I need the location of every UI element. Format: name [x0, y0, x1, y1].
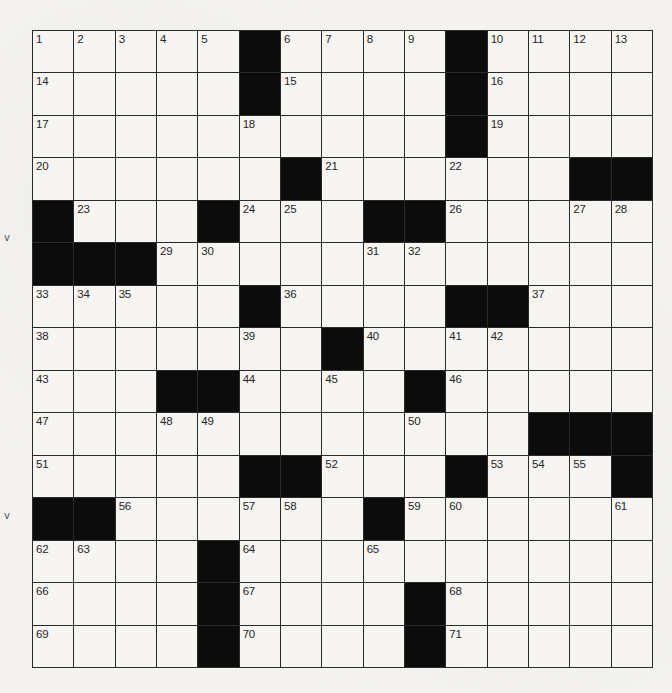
grid-cell[interactable]: 6: [281, 31, 321, 72]
grid-cell[interactable]: [529, 626, 569, 667]
grid-cell[interactable]: 48: [157, 413, 197, 454]
grid-cell[interactable]: 28: [612, 201, 652, 242]
grid-cell[interactable]: [570, 116, 610, 157]
grid-cell[interactable]: 32: [405, 243, 445, 284]
grid-cell[interactable]: [74, 371, 114, 412]
grid-cell[interactable]: 38: [33, 328, 73, 369]
grid-cell[interactable]: 64: [240, 541, 280, 582]
grid-cell[interactable]: 60: [446, 498, 486, 539]
grid-cell[interactable]: [116, 201, 156, 242]
grid-cell[interactable]: [157, 626, 197, 667]
grid-cell[interactable]: [364, 456, 404, 497]
grid-cell[interactable]: [446, 413, 486, 454]
grid-cell[interactable]: 69: [33, 626, 73, 667]
grid-cell[interactable]: 55: [570, 456, 610, 497]
grid-cell[interactable]: [116, 73, 156, 114]
grid-cell[interactable]: [570, 328, 610, 369]
grid-cell[interactable]: 17: [33, 116, 73, 157]
grid-cell[interactable]: [612, 541, 652, 582]
grid-cell[interactable]: [157, 201, 197, 242]
grid-cell[interactable]: [281, 371, 321, 412]
grid-cell[interactable]: [364, 583, 404, 624]
grid-cell[interactable]: 4: [157, 31, 197, 72]
grid-cell[interactable]: [281, 116, 321, 157]
grid-cell[interactable]: [198, 73, 238, 114]
grid-cell[interactable]: [322, 541, 362, 582]
grid-cell[interactable]: [116, 583, 156, 624]
grid-cell[interactable]: 13: [612, 31, 652, 72]
grid-cell[interactable]: 40: [364, 328, 404, 369]
grid-cell[interactable]: [529, 116, 569, 157]
grid-cell[interactable]: 25: [281, 201, 321, 242]
grid-cell[interactable]: [74, 626, 114, 667]
grid-cell[interactable]: [157, 583, 197, 624]
grid-cell[interactable]: 22: [446, 158, 486, 199]
grid-cell[interactable]: [529, 371, 569, 412]
grid-cell[interactable]: 44: [240, 371, 280, 412]
grid-cell[interactable]: 7: [322, 31, 362, 72]
grid-cell[interactable]: [116, 626, 156, 667]
grid-cell[interactable]: [74, 116, 114, 157]
grid-cell[interactable]: [612, 286, 652, 327]
grid-cell[interactable]: 61: [612, 498, 652, 539]
grid-cell[interactable]: 12: [570, 31, 610, 72]
grid-cell[interactable]: 9: [405, 31, 445, 72]
grid-cell[interactable]: 52: [322, 456, 362, 497]
grid-cell[interactable]: [612, 371, 652, 412]
grid-cell[interactable]: 23: [74, 201, 114, 242]
grid-cell[interactable]: [281, 243, 321, 284]
grid-cell[interactable]: [446, 541, 486, 582]
grid-cell[interactable]: [116, 328, 156, 369]
grid-cell[interactable]: 1: [33, 31, 73, 72]
grid-cell[interactable]: 53: [488, 456, 528, 497]
grid-cell[interactable]: [240, 158, 280, 199]
grid-cell[interactable]: 41: [446, 328, 486, 369]
grid-cell[interactable]: [157, 498, 197, 539]
grid-cell[interactable]: 2: [74, 31, 114, 72]
grid-cell[interactable]: [281, 583, 321, 624]
grid-cell[interactable]: 58: [281, 498, 321, 539]
grid-cell[interactable]: 46: [446, 371, 486, 412]
grid-cell[interactable]: [281, 541, 321, 582]
grid-cell[interactable]: [405, 456, 445, 497]
grid-cell[interactable]: 39: [240, 328, 280, 369]
grid-cell[interactable]: [116, 371, 156, 412]
grid-cell[interactable]: 18: [240, 116, 280, 157]
grid-cell[interactable]: [364, 158, 404, 199]
grid-cell[interactable]: 15: [281, 73, 321, 114]
grid-cell[interactable]: 16: [488, 73, 528, 114]
grid-cell[interactable]: [198, 158, 238, 199]
grid-cell[interactable]: 56: [116, 498, 156, 539]
grid-cell[interactable]: 33: [33, 286, 73, 327]
grid-cell[interactable]: 42: [488, 328, 528, 369]
grid-cell[interactable]: 62: [33, 541, 73, 582]
grid-cell[interactable]: 50: [405, 413, 445, 454]
grid-cell[interactable]: [364, 73, 404, 114]
grid-cell[interactable]: 20: [33, 158, 73, 199]
grid-cell[interactable]: [529, 201, 569, 242]
grid-cell[interactable]: [529, 541, 569, 582]
grid-cell[interactable]: [240, 413, 280, 454]
grid-cell[interactable]: [405, 286, 445, 327]
grid-cell[interactable]: 67: [240, 583, 280, 624]
grid-cell[interactable]: 29: [157, 243, 197, 284]
grid-cell[interactable]: 11: [529, 31, 569, 72]
grid-cell[interactable]: [322, 498, 362, 539]
grid-cell[interactable]: 21: [322, 158, 362, 199]
grid-cell[interactable]: [198, 286, 238, 327]
grid-cell[interactable]: [322, 413, 362, 454]
grid-cell[interactable]: [488, 626, 528, 667]
grid-cell[interactable]: [488, 371, 528, 412]
grid-cell[interactable]: [74, 73, 114, 114]
grid-cell[interactable]: [322, 243, 362, 284]
grid-cell[interactable]: [405, 116, 445, 157]
grid-cell[interactable]: [488, 243, 528, 284]
grid-cell[interactable]: [74, 328, 114, 369]
grid-cell[interactable]: [570, 626, 610, 667]
grid-cell[interactable]: [612, 73, 652, 114]
grid-cell[interactable]: [612, 583, 652, 624]
grid-cell[interactable]: [488, 201, 528, 242]
grid-cell[interactable]: 26: [446, 201, 486, 242]
grid-cell[interactable]: 45: [322, 371, 362, 412]
grid-cell[interactable]: [240, 243, 280, 284]
